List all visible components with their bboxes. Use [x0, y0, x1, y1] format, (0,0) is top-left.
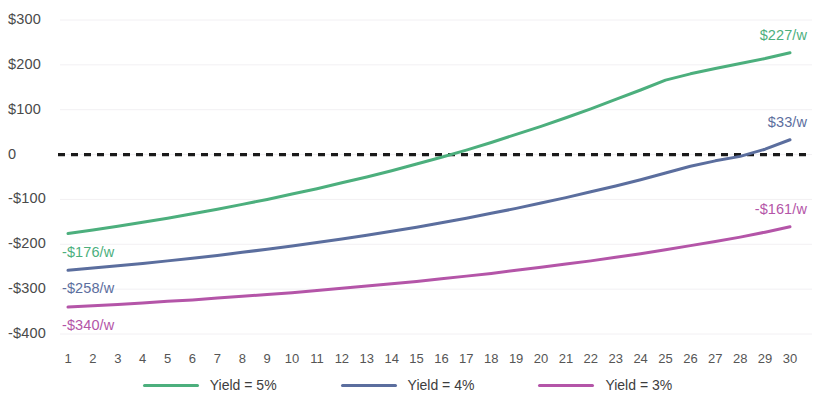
legend-swatch-icon	[143, 384, 199, 387]
legend-swatch-icon	[341, 384, 397, 387]
legend-item-3[interactable]: Yield = 3%	[538, 377, 672, 393]
line-chart: $300$200$1000-$100-$200-$300-$400 123456…	[0, 0, 815, 403]
legend-label: Yield = 4%	[408, 377, 475, 393]
x-tick-label: 22	[579, 351, 603, 366]
x-tick-label: 25	[654, 351, 678, 366]
x-tick-label: 19	[504, 351, 528, 366]
series-line-1	[68, 53, 790, 234]
x-tick-label: 2	[81, 351, 105, 366]
chart-legend: Yield = 5%Yield = 4%Yield = 3%	[0, 377, 815, 393]
x-tick-label: 9	[255, 351, 279, 366]
x-tick-label: 18	[479, 351, 503, 366]
legend-label: Yield = 5%	[210, 377, 277, 393]
x-tick-label: 16	[429, 351, 453, 366]
x-tick-label: 6	[180, 351, 204, 366]
x-tick-label: 17	[454, 351, 478, 366]
y-tick-label: 0	[8, 146, 16, 162]
legend-item-1[interactable]: Yield = 5%	[143, 377, 277, 393]
x-tick-label: 24	[629, 351, 653, 366]
x-tick-label: 28	[728, 351, 752, 366]
series-start-label-3: -$340/w	[62, 317, 114, 333]
x-tick-label: 10	[280, 351, 304, 366]
x-tick-label: 27	[703, 351, 727, 366]
y-tick-label: -$300	[8, 280, 46, 296]
x-tick-label: 5	[156, 351, 180, 366]
x-tick-label: 8	[230, 351, 254, 366]
x-tick-label: 20	[529, 351, 553, 366]
x-tick-label: 30	[778, 351, 802, 366]
y-tick-label: -$400	[8, 325, 46, 341]
x-tick-label: 4	[131, 351, 155, 366]
x-tick-label: 13	[355, 351, 379, 366]
x-tick-label: 15	[405, 351, 429, 366]
legend-label: Yield = 3%	[605, 377, 672, 393]
gridlines	[60, 20, 812, 334]
y-tick-label: $300	[8, 11, 41, 27]
x-tick-label: 23	[604, 351, 628, 366]
legend-swatch-icon	[538, 384, 594, 387]
x-tick-label: 3	[106, 351, 130, 366]
x-tick-label: 1	[56, 351, 80, 366]
legend-item-2[interactable]: Yield = 4%	[341, 377, 475, 393]
series-start-label-1: -$176/w	[62, 244, 114, 260]
x-tick-label: 7	[205, 351, 229, 366]
y-tick-label: $200	[8, 56, 41, 72]
x-tick-label: 21	[554, 351, 578, 366]
x-tick-label: 26	[678, 351, 702, 366]
series-line-3	[68, 227, 790, 307]
x-tick-label: 29	[753, 351, 777, 366]
series-end-label-2: $33/w	[768, 114, 807, 130]
chart-canvas	[0, 0, 815, 403]
x-tick-label: 11	[305, 351, 329, 366]
series-start-label-2: -$258/w	[62, 280, 114, 296]
y-tick-label: $100	[8, 101, 41, 117]
y-tick-label: -$200	[8, 235, 46, 251]
series-lines	[68, 53, 790, 307]
series-end-label-3: -$161/w	[755, 201, 807, 217]
x-tick-label: 12	[330, 351, 354, 366]
series-end-label-1: $227/w	[760, 27, 807, 43]
x-tick-label: 14	[380, 351, 404, 366]
y-tick-label: -$100	[8, 190, 46, 206]
